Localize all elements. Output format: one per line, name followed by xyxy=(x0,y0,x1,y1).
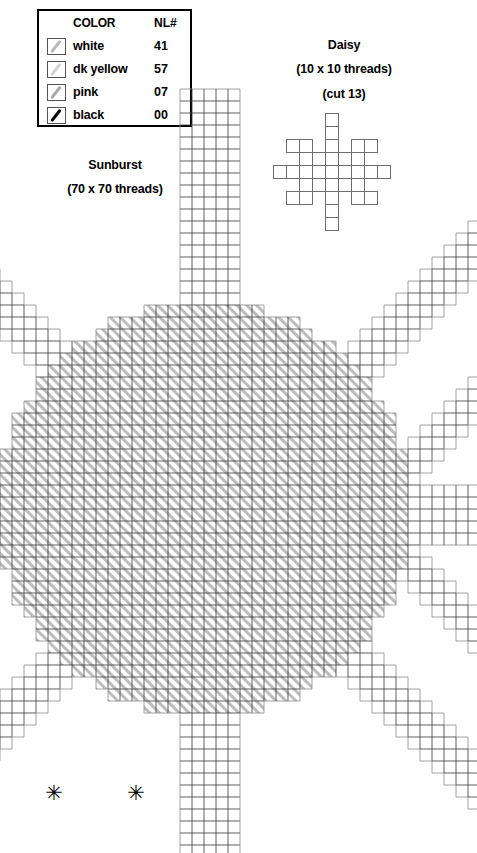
sunburst-disc-cell xyxy=(144,437,156,449)
sunburst-disc-cell xyxy=(264,317,276,329)
sunburst-disc-cell xyxy=(300,605,312,617)
sunburst-disc-cell xyxy=(288,317,300,329)
sunburst-disc-cell xyxy=(144,401,156,413)
sunburst-disc-cell xyxy=(216,305,228,317)
sunburst-disc-cell xyxy=(36,533,48,545)
sunburst-disc-cell xyxy=(300,449,312,461)
sunburst-disc-cell xyxy=(360,497,372,509)
daisy-chart xyxy=(273,113,393,218)
sunburst-disc-cell xyxy=(168,485,180,497)
sunburst-disc-cell xyxy=(300,425,312,437)
sunburst-disc-cell xyxy=(240,425,252,437)
sunburst-disc-cell xyxy=(288,401,300,413)
sunburst-disc-cell xyxy=(324,509,336,521)
sunburst-disc-cell xyxy=(84,485,96,497)
sunburst-disc-cell xyxy=(120,593,132,605)
sunburst-disc-cell xyxy=(180,485,192,497)
sunburst-disc-cell xyxy=(24,605,36,617)
sunburst-disc-cell xyxy=(264,437,276,449)
sunburst-disc-cell xyxy=(204,485,216,497)
sunburst-disc-cell xyxy=(84,413,96,425)
sunburst-disc-cell xyxy=(228,317,240,329)
sunburst-disc-cell xyxy=(300,533,312,545)
sunburst-disc-cell xyxy=(48,389,60,401)
sunburst-disc-cell xyxy=(336,353,348,365)
sunburst-disc-cell xyxy=(360,617,372,629)
sunburst-disc-cell xyxy=(240,317,252,329)
sunburst-disc-cell xyxy=(276,557,288,569)
sunburst-disc-cell xyxy=(228,353,240,365)
sunburst-disc-cell xyxy=(84,521,96,533)
sunburst-disc-cell xyxy=(168,389,180,401)
sunburst-disc-cell xyxy=(84,461,96,473)
sunburst-disc-cell xyxy=(240,665,252,677)
sunburst-disc-cell xyxy=(360,545,372,557)
sunburst-disc-cell xyxy=(348,521,360,533)
sunburst-disc-cell xyxy=(156,389,168,401)
sunburst-disc-cell xyxy=(120,569,132,581)
sunburst-disc-cell xyxy=(324,485,336,497)
sunburst-disc-cell xyxy=(228,401,240,413)
sunburst-disc-cell xyxy=(240,521,252,533)
sunburst-disc-cell xyxy=(24,425,36,437)
daisy-cell xyxy=(326,140,339,153)
sunburst-disc-cell xyxy=(12,437,24,449)
sunburst-disc-cell xyxy=(204,413,216,425)
sunburst-disc-cell xyxy=(96,401,108,413)
sunburst-disc-cell xyxy=(108,389,120,401)
sunburst-disc-cell xyxy=(336,569,348,581)
sunburst-disc-cell xyxy=(132,485,144,497)
sunburst-disc-cell xyxy=(300,557,312,569)
sunburst-disc-cell xyxy=(204,653,216,665)
sunburst-disc-cell xyxy=(240,533,252,545)
sunburst-disc-cell xyxy=(204,341,216,353)
sunburst-disc-cell xyxy=(252,533,264,545)
sunburst-disc-cell xyxy=(144,425,156,437)
sunburst-disc-cell xyxy=(360,401,372,413)
sunburst-disc-cell xyxy=(228,437,240,449)
sunburst-disc-cell xyxy=(264,401,276,413)
sunburst-size-label: (70 x 70 threads) xyxy=(25,182,205,196)
white-swatch-icon xyxy=(47,38,66,55)
sunburst-disc-cell xyxy=(120,533,132,545)
sunburst-disc-cell xyxy=(228,305,240,317)
sunburst-disc-cell xyxy=(60,545,72,557)
daisy-cell xyxy=(378,166,391,179)
sunburst-disc-cell xyxy=(156,545,168,557)
daisy-cell xyxy=(352,153,365,166)
sunburst-disc-cell xyxy=(276,677,288,689)
sunburst-disc-cell xyxy=(144,389,156,401)
sunburst-disc-cell xyxy=(48,437,60,449)
sunburst-disc-cell xyxy=(348,557,360,569)
sunburst-disc-cell xyxy=(72,353,84,365)
sunburst-disc-cell xyxy=(264,533,276,545)
sunburst-disc-cell xyxy=(252,401,264,413)
sunburst-disc-cell xyxy=(300,353,312,365)
sunburst-disc-cell xyxy=(324,557,336,569)
sunburst-disc-cell xyxy=(48,581,60,593)
sunburst-disc-cell xyxy=(180,473,192,485)
sunburst-disc-cell xyxy=(72,449,84,461)
sunburst-disc-cell xyxy=(252,449,264,461)
sunburst-disc-cell xyxy=(252,545,264,557)
sunburst-disc-cell xyxy=(276,617,288,629)
sunburst-disc-cell xyxy=(276,473,288,485)
sunburst-disc-cell xyxy=(156,305,168,317)
sunburst-disc-cell xyxy=(360,485,372,497)
sunburst-disc-cell xyxy=(204,533,216,545)
sunburst-disc-cell xyxy=(180,353,192,365)
sunburst-disc-cell xyxy=(192,353,204,365)
legend-label-white: white xyxy=(73,34,154,57)
sunburst-disc-cell xyxy=(312,473,324,485)
sunburst-disc-cell xyxy=(324,353,336,365)
sunburst-disc-cell xyxy=(312,545,324,557)
sunburst-disc-cell xyxy=(252,461,264,473)
daisy-cell xyxy=(313,153,326,166)
daisy-cell xyxy=(326,205,339,218)
sunburst-disc-cell xyxy=(240,401,252,413)
sunburst-disc-cell xyxy=(228,533,240,545)
sunburst-disc-cell xyxy=(372,485,384,497)
sunburst-disc-cell xyxy=(156,497,168,509)
sunburst-disc-cell xyxy=(180,341,192,353)
sunburst-disc-cell xyxy=(144,665,156,677)
